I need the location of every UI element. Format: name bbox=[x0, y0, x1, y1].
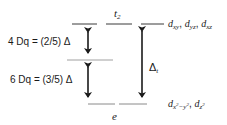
lower-gap-label: 6 Dq = (3/5) Δ bbox=[10, 75, 73, 85]
t2-label: t2 bbox=[114, 8, 121, 21]
e-label: e bbox=[112, 111, 117, 122]
t2-orbitals-label: dxy, dyz, dxz bbox=[168, 19, 212, 31]
e-orbitals-label: dx2−y2, dz2 bbox=[168, 99, 205, 111]
upper-gap-label: 4 Dq = (2/5) Δ bbox=[8, 37, 71, 47]
total-gap-label: Δt bbox=[149, 62, 158, 75]
